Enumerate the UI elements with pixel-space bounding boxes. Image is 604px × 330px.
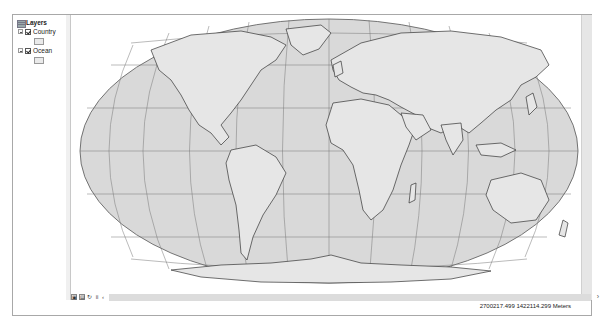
collapse-icon[interactable] <box>18 48 23 53</box>
vertical-scrollbar[interactable] <box>581 15 592 300</box>
scroll-right-icon[interactable]: › <box>597 293 599 300</box>
horizontal-scrollbar[interactable]: › <box>109 294 591 301</box>
scroll-left-icon[interactable]: ‹ <box>102 294 104 300</box>
table-of-contents: Layers Country Ocean <box>13 15 67 300</box>
layer-name: Country <box>33 28 56 35</box>
layers-header[interactable]: Layers <box>17 19 47 26</box>
layers-title: Layers <box>26 19 47 26</box>
layers-icon <box>17 20 24 26</box>
coordinate-readout: 2700217.499 1422114.299 Meters <box>480 303 571 309</box>
layer-country[interactable]: Country <box>18 28 56 35</box>
country-symbol-swatch[interactable] <box>34 38 44 45</box>
layer-ocean[interactable]: Ocean <box>18 47 52 54</box>
application-frame: Layers Country Ocean <box>12 14 592 316</box>
world-map <box>71 15 581 300</box>
layout-view-button[interactable]: ▣ <box>71 294 77 300</box>
refresh-icon[interactable]: ↻ <box>87 294 92 300</box>
data-view-button[interactable]: ▤ <box>79 294 85 300</box>
bottom-toolbar: ▣ ▤ ↻ ॥ ‹ › <box>71 293 591 301</box>
layer-visibility-checkbox[interactable] <box>25 29 31 35</box>
layer-name: Ocean <box>33 47 52 54</box>
map-display[interactable] <box>71 15 581 300</box>
ocean-symbol-swatch[interactable] <box>34 57 44 64</box>
layer-visibility-checkbox[interactable] <box>25 48 31 54</box>
collapse-icon[interactable] <box>18 29 23 34</box>
pause-icon[interactable]: ॥ <box>95 294 99 300</box>
